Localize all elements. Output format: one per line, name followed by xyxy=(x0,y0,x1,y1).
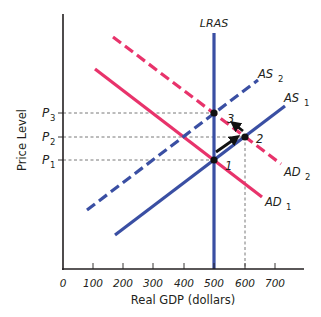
svg-text:P: P xyxy=(42,106,50,120)
svg-text:2: 2 xyxy=(278,74,283,84)
point-2 xyxy=(241,133,248,140)
svg-text:2: 2 xyxy=(305,172,310,182)
x-tick-300: 300 xyxy=(143,277,163,289)
reference-lines xyxy=(63,113,245,269)
point-3-label: 3 xyxy=(227,112,234,126)
svg-text:3: 3 xyxy=(50,113,55,123)
ad2-label: AD 2 xyxy=(283,165,310,182)
point-1 xyxy=(210,156,217,163)
lras-label: LRAS xyxy=(200,17,228,30)
svg-text:AS: AS xyxy=(283,91,299,105)
x-tick-100: 100 xyxy=(83,277,103,289)
svg-text:1: 1 xyxy=(286,202,291,212)
x-tick-600: 600 xyxy=(235,277,255,289)
x-axis-title: Real GDP (dollars) xyxy=(131,293,235,307)
ad-as-chart: 0 100 200 300 400 500 600 700 Real GDP (… xyxy=(0,0,321,317)
x-tick-400: 400 xyxy=(174,277,194,289)
x-tick-700: 700 xyxy=(265,277,285,289)
x-tick-500: 500 xyxy=(204,277,224,289)
point-1-label: 1 xyxy=(225,159,232,173)
axes xyxy=(62,14,304,270)
ad1-label: AD 1 xyxy=(264,195,291,212)
svg-text:AD: AD xyxy=(264,195,282,209)
point-2-label: 2 xyxy=(256,132,263,146)
p3-label: P 3 xyxy=(42,106,55,123)
svg-text:AD: AD xyxy=(283,165,301,179)
svg-text:1: 1 xyxy=(304,98,309,108)
x-tick-0: 0 xyxy=(60,277,67,289)
y-axis-title: Price Level xyxy=(15,109,29,171)
x-tick-labels: 0 100 200 300 400 500 600 700 xyxy=(60,277,286,289)
as2-label: AS 2 xyxy=(257,67,283,84)
svg-text:AS: AS xyxy=(257,67,273,81)
as1-label: AS 1 xyxy=(283,91,309,108)
svg-text:2: 2 xyxy=(50,137,55,147)
svg-text:P: P xyxy=(42,130,50,144)
p2-label: P 2 xyxy=(42,130,55,147)
svg-text:1: 1 xyxy=(50,160,55,170)
svg-text:P: P xyxy=(42,153,50,167)
x-ticks xyxy=(93,263,275,269)
point-3 xyxy=(210,109,217,116)
p1-label: P 1 xyxy=(42,153,55,170)
x-tick-200: 200 xyxy=(113,277,133,289)
